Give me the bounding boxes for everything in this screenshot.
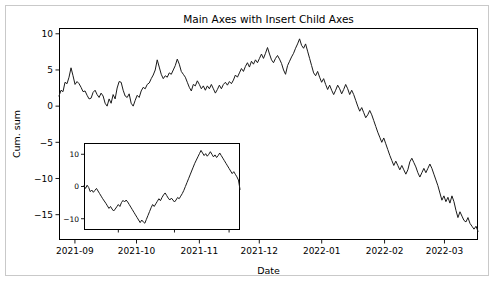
y-tick-label: 0 [47, 101, 53, 111]
inset-y-tick-group: 100−10 [63, 150, 84, 223]
x-tick-label: 2022-03 [426, 246, 464, 256]
y-tick-label: −15 [34, 210, 53, 220]
x-axis-label: Date [257, 265, 280, 276]
y-tick-label: 10 [42, 29, 54, 39]
x-tick-label: 2021-12 [240, 246, 278, 256]
inset-y-tick-label: 0 [74, 182, 79, 191]
main-x-tick-group: 2021-092021-102021-112021-122022-012022-… [56, 240, 463, 256]
chart-canvas: Main Axes with Insert Child Axes 1050−5−… [0, 0, 496, 282]
y-tick-label: 5 [47, 65, 53, 75]
main-axes: Main Axes with Insert Child Axes 1050−5−… [11, 13, 478, 276]
inset-y-tick-label: 10 [69, 150, 79, 159]
inset-child-axes: 100−10 [63, 143, 240, 233]
y-tick-label: −10 [34, 174, 53, 184]
inset-y-tick-label: −10 [63, 215, 79, 224]
y-axis-label: Cum. sum [11, 110, 22, 158]
x-tick-label: 2022-01 [303, 246, 341, 256]
main-y-tick-group: 1050−5−10−15 [34, 29, 59, 220]
x-tick-label: 2022-02 [366, 246, 404, 256]
inset-background [84, 143, 240, 230]
x-tick-label: 2021-09 [56, 246, 94, 256]
matplotlib-figure: Main Axes with Insert Child Axes 1050−5−… [0, 0, 496, 282]
inset-x-tick-group [118, 230, 229, 233]
chart-title: Main Axes with Insert Child Axes [183, 13, 354, 25]
x-tick-label: 2021-11 [181, 246, 219, 256]
x-tick-label: 2021-10 [118, 246, 156, 256]
y-tick-label: −5 [40, 138, 53, 148]
